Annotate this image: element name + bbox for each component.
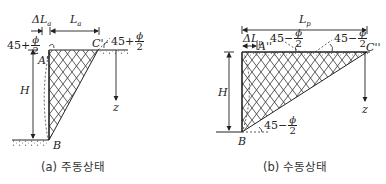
z-label-b: z: [362, 104, 368, 115]
failure-wedge-b: [242, 52, 367, 132]
angle-bottom-b: 45− ϕ2: [264, 115, 297, 136]
point-c-double-prime: C'': [366, 42, 380, 53]
angle-right-a: 45+ ϕ2: [111, 31, 144, 52]
angle-top-right-b: 45− ϕ2: [334, 28, 367, 49]
failure-wedge-a: [49, 50, 98, 140]
angle-left-a: 45+ ϕ2: [7, 35, 40, 56]
point-c-prime: C': [92, 38, 103, 49]
earth-pressure-diagram: [0, 0, 386, 184]
point-a-prime: A': [38, 55, 49, 66]
angle-top-left-b: 45− ϕ2: [270, 28, 303, 49]
z-label-a: z: [113, 102, 119, 113]
caption-b: (b) 수동상태: [263, 158, 327, 174]
h-label-b: H: [218, 87, 228, 98]
point-b-b: B: [238, 136, 246, 147]
delta-l-a-label: ΔLa: [32, 14, 51, 28]
h-label-a: H: [20, 85, 30, 96]
caption-a: (a) 주동상태: [41, 158, 105, 174]
point-b-a: B: [53, 140, 61, 151]
l-a-label: La: [70, 14, 82, 28]
